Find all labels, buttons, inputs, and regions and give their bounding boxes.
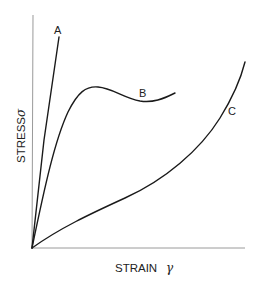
x-axis-label: STRAIN γ	[115, 261, 174, 275]
curve-a	[32, 37, 59, 248]
y-axis-symbol: σ	[14, 108, 28, 117]
y-axis-label: STRESS σ	[14, 108, 28, 163]
curve-b	[32, 87, 175, 248]
x-axis-label-text: STRAIN	[115, 262, 157, 274]
x-axis-symbol: γ	[166, 261, 174, 275]
y-axis-label-text: STRESS	[15, 117, 27, 163]
curve-b-label: B	[139, 87, 146, 99]
y-axis	[32, 15, 33, 248]
curve-c-label: C	[228, 105, 236, 117]
stress-strain-diagram: A B C STRESS σ STRAIN γ	[0, 0, 258, 284]
curve-a-label: A	[54, 24, 62, 36]
